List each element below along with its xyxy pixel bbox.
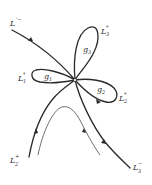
region-g1-label: g 1 <box>44 72 52 82</box>
region-g3-label: g 3 <box>83 45 91 55</box>
svg-text:1: 1 <box>49 76 52 82</box>
svg-text:2: 2 <box>123 98 127 104</box>
label-L1-star: L * 1 <box>17 71 26 84</box>
svg-text:*: * <box>124 91 127 97</box>
svg-text:3: 3 <box>88 49 91 55</box>
svg-text:1: 1 <box>23 78 26 84</box>
label-L3-star: L * 3 <box>100 24 109 37</box>
label-L-prime-minus: L '− <box>9 16 22 28</box>
arrow-icon <box>34 128 38 134</box>
svg-text:'−: '− <box>16 16 22 22</box>
equilibrium-point <box>73 78 76 81</box>
trajectory-arc <box>38 107 100 155</box>
svg-text:+: + <box>15 153 19 159</box>
svg-text:L: L <box>9 19 15 28</box>
label-L3-minus: L − 3 <box>132 160 142 174</box>
region-g2-label: g 2 <box>97 85 105 95</box>
svg-text:3: 3 <box>106 31 109 37</box>
svg-text:*: * <box>23 71 26 77</box>
svg-text:2: 2 <box>14 161 18 167</box>
separatrix-L2-plus <box>29 80 75 157</box>
svg-text:*: * <box>106 24 109 30</box>
svg-text:2: 2 <box>101 89 105 95</box>
svg-text:3: 3 <box>138 168 141 174</box>
loop-g1 <box>32 69 75 82</box>
phase-portrait-diagram: L '− L * 3 L * 1 L * 2 L + 2 L − 3 g 3 g… <box>0 0 152 185</box>
svg-text:−: − <box>138 160 142 166</box>
label-L2-plus: L + 2 <box>9 153 19 167</box>
label-L2-star: L * 2 <box>118 91 127 104</box>
